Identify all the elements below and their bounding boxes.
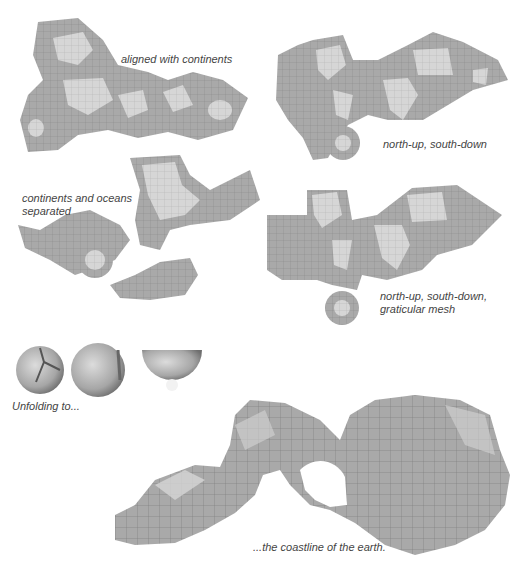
unfolded-map-illustration [8, 10, 258, 150]
coastline-map-illustration [115, 395, 515, 560]
caption-north-up-south-down: north-up, south-down [383, 138, 487, 151]
map-north-up-south-down: north-up, south-down [268, 20, 518, 160]
caption-line: graticular mesh [380, 303, 487, 316]
caption-unfolding: Unfolding to... [12, 400, 80, 413]
unfolded-map-illustration [10, 150, 260, 300]
caption-line: aligned with continents [121, 53, 232, 66]
caption-continents-and-oceans-separated: continents and oceans separated [22, 192, 132, 218]
globe-icon [142, 350, 202, 380]
caption-line: separated [22, 205, 132, 218]
map-coastline-of-the-earth: ...the coastline of the earth. [115, 395, 515, 560]
map-continents-and-oceans-separated: continents and oceans separated [10, 150, 260, 300]
caption-line: Unfolding to... [12, 400, 80, 413]
caption-line: continents and oceans [22, 192, 132, 205]
caption-coastline: ...the coastline of the earth. [253, 541, 386, 554]
caption-line: north-up, south-down [383, 138, 487, 151]
map-aligned-with-continents: aligned with continents [8, 10, 258, 150]
globes-illustration [10, 340, 210, 400]
caption-aligned-with-continents: aligned with continents [121, 53, 232, 66]
map-graticular-mesh: north-up, south-down, graticular mesh [262, 170, 517, 320]
caption-line: ...the coastline of the earth. [253, 541, 386, 554]
caption-graticular-mesh: north-up, south-down, graticular mesh [380, 290, 487, 316]
caption-line: north-up, south-down, [380, 290, 487, 303]
